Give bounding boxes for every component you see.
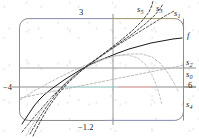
curve-label-s2: s2 [186,58,193,68]
axis-tick-label-right: 6 [188,81,192,90]
taylor-approximation-figure [0,0,199,138]
axis-tick-label-top: 3 [79,8,83,17]
curve-s4 [26,55,162,136]
curve-label-s4: s4 [186,100,193,110]
axis-tick-label-bottom: −1.2 [78,123,93,132]
curve-label-f: f [187,31,190,41]
curve-f [22,38,182,124]
curve-label-s3: s3 [156,4,163,14]
axis-tick-stubs [12,14,196,125]
curve-label-s1: s1 [174,9,181,19]
curve-s0 [20,65,184,98]
axis-tick-label-left: −4 [3,83,12,92]
curve-s3 [30,4,163,134]
curve-label-s5: s5 [137,5,144,15]
curve-label-s0: s0 [186,70,193,80]
